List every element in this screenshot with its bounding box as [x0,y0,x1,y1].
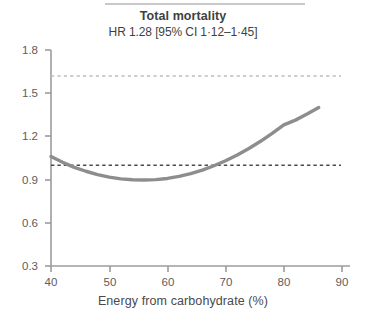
x-tick-label: 50 [90,276,130,288]
x-axis-title: Energy from carbohydrate (%) [0,294,366,308]
x-tick-label: 70 [206,276,246,288]
y-tick-label: 1.8 [4,44,38,56]
hazard-ratio-curve [51,108,319,180]
y-tick-label: 0.9 [4,174,38,186]
x-tick-label: 80 [264,276,304,288]
y-tick-label: 0.3 [4,260,38,272]
y-tick-label: 1.5 [4,87,38,99]
x-tick-label: 90 [322,276,362,288]
chart-figure: Total mortality HR 1.28 [95% CI 1·12–1·4… [0,0,366,326]
x-tick-label: 60 [148,276,188,288]
y-tick-label: 0.6 [4,217,38,229]
y-tick-label: 1.2 [4,130,38,142]
x-tick-label: 40 [31,276,71,288]
x-tick-marks [51,266,342,272]
